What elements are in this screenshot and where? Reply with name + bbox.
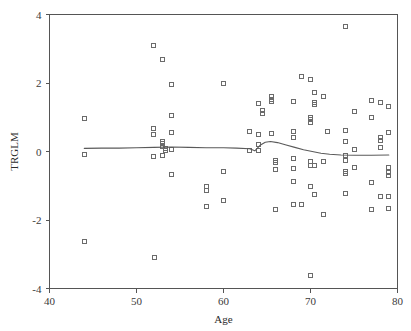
data-point-marker [291,135,295,139]
axis-frame [50,15,398,289]
data-point-marker [326,130,330,134]
data-point-marker [222,169,226,173]
data-point-marker [291,156,295,160]
data-point-marker [291,203,295,207]
data-point-marker [343,191,347,195]
data-point-marker [82,239,86,243]
data-point-marker [169,131,173,135]
data-point-marker [378,195,382,199]
data-point-marker [387,166,391,170]
data-point-marker [387,173,391,177]
plot-canvas: 4050607080 -4-2024 Age TRGLM [0,0,411,331]
y-tick-label: 0 [36,146,42,158]
scatter-plot-figure: 4050607080 -4-2024 Age TRGLM [0,0,411,331]
data-point-marker [322,94,326,98]
data-point-marker [161,139,165,143]
data-point-marker [369,207,373,211]
data-point-marker [313,192,317,196]
data-point-marker [343,24,347,28]
x-tick-label: 70 [305,295,317,307]
data-point-marker [204,205,208,209]
data-point-marker [387,171,391,175]
data-point-marker [204,189,208,193]
data-point-marker [352,109,356,113]
data-point-marker [291,130,295,134]
y-axis-title: TRGLM [8,132,20,171]
y-tick-label: 4 [36,9,42,21]
data-point-marker [322,213,326,217]
data-point-marker [261,108,265,112]
data-point-marker [169,114,173,118]
data-point-marker [309,273,313,277]
data-point-marker [204,184,208,188]
data-point-marker [387,195,391,199]
data-point-marker [82,153,86,157]
x-axis-ticks: 4050607080 [44,289,404,307]
data-point-marker [152,155,156,159]
data-point-marker [256,132,260,136]
data-point-marker [256,102,260,106]
data-point-marker [309,184,313,188]
x-axis-title: Age [214,313,232,325]
data-point-marker [300,203,304,207]
data-point-marker [161,154,165,158]
data-point-marker [274,161,278,165]
data-point-marker [169,148,173,152]
data-point-marker [309,78,313,82]
data-point-marker [309,164,313,168]
plot-frame [50,15,398,289]
data-point-marker [387,131,391,135]
data-point-marker [378,145,382,149]
data-point-marker [343,140,347,144]
data-point-marker [169,173,173,177]
data-point-marker [378,101,382,105]
data-point-marker [352,165,356,169]
y-tick-label: 2 [36,77,42,89]
data-point-marker [169,83,173,87]
x-tick-label: 40 [44,295,56,307]
data-point-marker [309,160,313,164]
data-point-marker [369,180,373,184]
x-tick-label: 80 [392,295,404,307]
x-tick-label: 50 [131,295,143,307]
y-tick-label: -4 [32,283,42,295]
data-point-marker [291,100,295,104]
data-point-marker [352,148,356,152]
data-point-marker [387,206,391,210]
data-point-marker [309,115,313,119]
data-point-marker [343,128,347,132]
data-point-marker [291,180,295,184]
data-point-marker [153,256,157,260]
x-tick-label: 60 [218,295,230,307]
y-tick-label: -2 [32,214,41,226]
data-point-marker [222,198,226,202]
data-point-marker [222,82,226,86]
data-point-marker [369,116,373,120]
data-point-marker [152,43,156,47]
data-point-marker [274,208,278,212]
data-point-marker [161,142,165,146]
data-point-marker [387,105,391,109]
data-point-marker [261,111,265,115]
data-point-marker [269,132,273,136]
data-point-marker [343,158,347,162]
data-point-marker [313,91,317,95]
data-point-marker [152,132,156,136]
data-points-layer [82,24,391,277]
data-point-marker [161,57,165,61]
y-axis-ticks: -4-2024 [32,9,49,295]
data-point-marker [248,130,252,134]
data-point-marker [313,163,317,167]
data-point-marker [300,75,304,79]
data-point-marker [369,99,373,103]
data-point-marker [322,159,326,163]
data-point-marker [152,127,156,131]
data-point-marker [274,158,278,162]
data-point-marker [291,167,295,171]
data-point-marker [82,117,86,121]
data-point-marker [274,167,278,171]
